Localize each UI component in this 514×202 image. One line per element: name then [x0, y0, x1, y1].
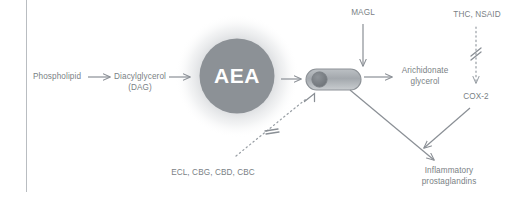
edge-cox2-to-inflammatory	[424, 108, 470, 148]
label-cox2: COX-2	[452, 92, 500, 103]
label-arachidonate-glycerol: Arichidonate glycerol	[392, 66, 458, 87]
label-inflammatory-prostaglandins: Inflammatory prostaglandins	[399, 166, 499, 187]
inhibition-hook-enzyme	[305, 94, 315, 102]
label-diacylglycerol: Diacylglycerol (DAG)	[104, 72, 176, 93]
membrane-enzyme-binding-site	[312, 72, 327, 87]
label-phospholipid: Phospholipid	[26, 72, 88, 83]
label-aea: AEA	[200, 64, 274, 88]
edge-enzyme-to-inflammatory	[350, 90, 434, 160]
pathway-diagram: Phospholipid Diacylglycerol (DAG) AEA MA…	[0, 0, 514, 202]
label-thc-nsaid: THC, NSAID	[446, 10, 508, 21]
label-magl: MAGL	[338, 8, 388, 19]
label-inhibitors: ECL, CBG, CBD, CBC	[150, 168, 276, 179]
